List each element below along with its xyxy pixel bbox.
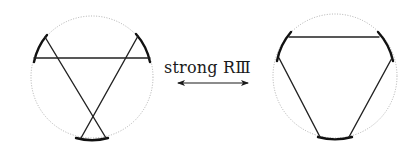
right-strand-3	[349, 58, 392, 137]
right-chord-diagram	[273, 14, 397, 139]
left-arcs	[34, 34, 150, 140]
move-label: strong RⅢ	[164, 58, 251, 77]
left-strand-2	[45, 37, 106, 138]
left-strands	[34, 36, 150, 138]
right-boundary-arc-3	[318, 137, 352, 139]
left-chord-diagram	[31, 16, 153, 140]
left-strand-3	[81, 36, 138, 138]
right-boundary-arc-2	[378, 32, 393, 61]
right-strand-2	[279, 58, 320, 137]
right-strands	[279, 37, 392, 137]
